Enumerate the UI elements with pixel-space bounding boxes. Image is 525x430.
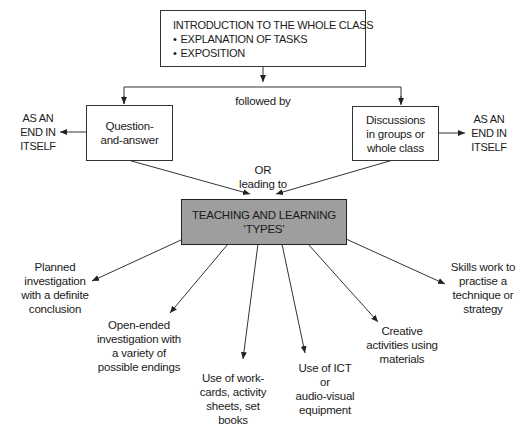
type-workcards-line-2: cards, activity <box>190 385 276 399</box>
type-open-line-2: investigation with <box>94 332 184 346</box>
right-end-line-1: AS AN <box>467 112 511 126</box>
type-ict-line-2: or <box>290 375 360 389</box>
center-line-1: TEACHING AND LEARNING <box>192 208 336 222</box>
left-end-line-2: END IN <box>16 125 60 139</box>
center-line-2: ‘TYPES’ <box>192 222 336 236</box>
intro-title: INTRODUCTION TO THE WHOLE CLASS <box>173 18 365 32</box>
right-end-in-itself-label: AS AN END IN ITSELF <box>467 112 511 154</box>
type-planned-line-2: investigation <box>16 274 94 288</box>
discussions-line-1: Discussions <box>353 113 438 127</box>
type-ict-equipment: Use of ICT or audio-visual equipment <box>290 361 360 417</box>
type-workcards-line-3: sheets, set books <box>190 399 276 427</box>
type-ict-line-1: Use of ICT <box>290 361 360 375</box>
left-end-line-1: AS AN <box>16 111 60 125</box>
type-planned-line-3: with a definite <box>16 288 94 302</box>
or-label: OR <box>213 163 313 177</box>
right-end-line-3: ITSELF <box>467 140 511 154</box>
type-creative-line-1: Creative <box>362 324 442 338</box>
type-creative-line-2: activities using <box>362 338 442 352</box>
type-ict-line-3: audio-visual <box>290 389 360 403</box>
intro-box: INTRODUCTION TO THE WHOLE CLASS EXPLANAT… <box>160 10 366 67</box>
type-ict-line-4: equipment <box>290 403 360 417</box>
left-end-line-3: ITSELF <box>16 139 60 153</box>
type-planned-line-1: Planned <box>16 260 94 274</box>
intro-bullet-tasks: EXPLANATION OF TASKS <box>173 32 365 46</box>
type-skills-line-3: technique or <box>445 288 521 302</box>
type-skills-line-4: strategy <box>445 302 521 316</box>
type-open-line-4: possible endings <box>94 360 184 374</box>
type-creative-activities: Creative activities using materials <box>362 324 442 366</box>
type-workcards-line-1: Use of work- <box>190 371 276 385</box>
type-skills-line-1: Skills work to <box>445 260 521 274</box>
type-work-cards: Use of work- cards, activity sheets, set… <box>190 371 276 427</box>
type-skills-line-2: practise a <box>445 274 521 288</box>
type-skills-work: Skills work to practise a technique or s… <box>445 260 521 316</box>
left-end-in-itself-label: AS AN END IN ITSELF <box>16 111 60 153</box>
discussions-line-3: whole class <box>353 141 438 155</box>
type-planned-investigation: Planned investigation with a definite co… <box>16 260 94 316</box>
right-end-line-2: END IN <box>467 126 511 140</box>
or-leading-to-label: OR leading to <box>213 163 313 191</box>
intro-bullet-exposition: EXPOSITION <box>173 46 365 60</box>
type-planned-line-4: conclusion <box>16 302 94 316</box>
question-answer-line-2: and-answer <box>87 133 172 147</box>
question-answer-line-1: Question- <box>87 119 172 133</box>
flow-diagram: INTRODUCTION TO THE WHOLE CLASS EXPLANAT… <box>0 0 525 430</box>
followed-by-label: followed by <box>213 94 313 108</box>
leading-to-label: leading to <box>213 177 313 191</box>
discussions-box: Discussions in groups or whole class <box>352 106 439 161</box>
teaching-learning-types-box: TEACHING AND LEARNING ‘TYPES’ <box>181 199 347 245</box>
discussions-line-2: in groups or <box>353 127 438 141</box>
question-answer-box: Question- and-answer <box>86 105 173 161</box>
type-open-line-1: Open-ended <box>94 318 184 332</box>
type-creative-line-3: materials <box>362 352 442 366</box>
type-open-line-3: a variety of <box>94 346 184 360</box>
type-open-ended-investigation: Open-ended investigation with a variety … <box>94 318 184 374</box>
